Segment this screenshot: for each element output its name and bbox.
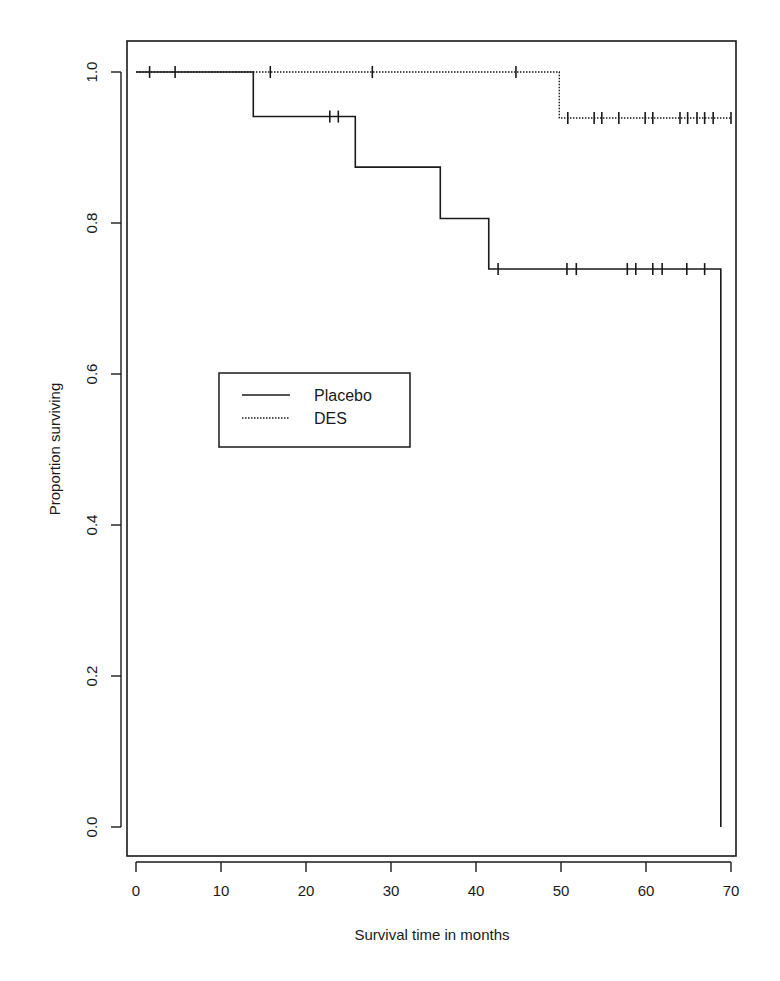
x-axis: 010203040506070: [132, 862, 740, 899]
x-tick-label: 10: [213, 882, 230, 899]
y-axis: 0.00.20.40.60.81.0: [83, 62, 121, 838]
y-axis-label: Proportion surviving: [46, 383, 63, 516]
x-tick-label: 40: [468, 882, 485, 899]
plot-frame: [127, 41, 736, 856]
legend: Placebo DES: [219, 373, 410, 447]
y-tick-label: 0.0: [83, 817, 100, 838]
series-des: [136, 66, 731, 124]
x-axis-label: Survival time in months: [354, 926, 509, 943]
x-tick-label: 60: [638, 882, 655, 899]
y-tick-label: 0.2: [83, 666, 100, 687]
legend-label-des: DES: [314, 410, 347, 427]
y-tick-label: 1.0: [83, 62, 100, 83]
x-tick-label: 50: [553, 882, 570, 899]
x-tick-label: 0: [132, 882, 140, 899]
legend-label-placebo: Placebo: [314, 387, 372, 404]
x-tick-label: 30: [383, 882, 400, 899]
y-tick-label: 0.4: [83, 515, 100, 536]
x-tick-label: 20: [298, 882, 315, 899]
x-tick-label: 70: [723, 882, 740, 899]
y-tick-label: 0.6: [83, 364, 100, 385]
kaplan-meier-chart: 010203040506070 0.00.20.40.60.81.0 Survi…: [0, 0, 780, 981]
y-tick-label: 0.8: [83, 213, 100, 234]
